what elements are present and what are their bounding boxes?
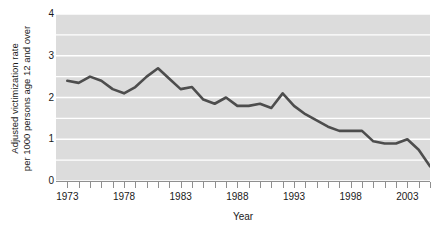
y-axis-tick-label: 3 xyxy=(38,51,54,61)
x-axis-tick xyxy=(237,182,238,188)
x-axis-tick-labels: 1973197819831988199319982003 xyxy=(56,191,430,205)
x-axis-tick xyxy=(305,182,306,188)
x-axis-tick xyxy=(147,182,148,188)
x-axis-tick xyxy=(271,182,272,188)
x-axis-tick xyxy=(385,182,386,188)
x-axis-tick xyxy=(192,182,193,188)
x-axis-title: Year xyxy=(56,211,430,223)
x-axis-tick xyxy=(79,182,80,188)
x-axis-tick xyxy=(339,182,340,188)
x-axis-tick xyxy=(430,182,431,188)
y-axis-title-line-1: Adjusted victimization rate xyxy=(10,25,22,170)
x-axis-tick-label: 1993 xyxy=(283,191,305,203)
x-axis-tick-label: 1988 xyxy=(226,191,248,203)
x-axis-tick xyxy=(249,182,250,188)
x-axis-tick xyxy=(294,182,295,188)
data-series-line xyxy=(67,68,430,166)
x-axis-tick xyxy=(158,182,159,188)
x-axis-tick xyxy=(419,182,420,188)
x-axis-tick xyxy=(101,182,102,188)
y-axis-tick-label: 4 xyxy=(38,9,54,19)
x-axis-tick-label: 1973 xyxy=(56,191,78,203)
victimization-rate-line-chart: Adjusted victimization rate per 1000 per… xyxy=(0,0,440,233)
x-axis-tick xyxy=(362,182,363,188)
x-axis-tick xyxy=(67,182,68,188)
y-axis-tick-labels: 01234 xyxy=(38,0,54,196)
x-axis-tick-label: 1978 xyxy=(113,191,135,203)
plot-svg xyxy=(56,14,430,181)
x-axis-tick xyxy=(90,182,91,188)
x-axis-tick xyxy=(396,182,397,188)
y-axis-tick-label: 2 xyxy=(38,93,54,103)
y-axis-title: Adjusted victimization rate per 1000 per… xyxy=(0,0,42,196)
x-axis-tick xyxy=(317,182,318,188)
gridlines xyxy=(56,14,430,181)
x-axis-tick-label: 2003 xyxy=(396,191,418,203)
y-axis-title-line-2: per 1000 persons age 12 and over xyxy=(21,25,33,170)
x-axis-tick xyxy=(113,182,114,188)
x-axis-tick xyxy=(215,182,216,188)
plot-area xyxy=(56,14,430,181)
x-axis-tick xyxy=(181,182,182,188)
x-axis-tick xyxy=(283,182,284,188)
x-axis-tick xyxy=(407,182,408,188)
x-axis-tick xyxy=(203,182,204,188)
y-axis-tick-label: 0 xyxy=(38,176,54,186)
x-axis-tick xyxy=(260,182,261,188)
x-axis-tick xyxy=(373,182,374,188)
x-axis-tick-label: 1998 xyxy=(340,191,362,203)
x-axis-tick xyxy=(351,182,352,188)
x-axis-tick-label: 1983 xyxy=(170,191,192,203)
x-axis-tick xyxy=(328,182,329,188)
y-axis-tick-label: 1 xyxy=(38,134,54,144)
x-axis-tick xyxy=(169,182,170,188)
x-axis-tick xyxy=(135,182,136,188)
x-axis xyxy=(56,181,430,190)
x-axis-tick xyxy=(226,182,227,188)
x-axis-tick xyxy=(124,182,125,188)
